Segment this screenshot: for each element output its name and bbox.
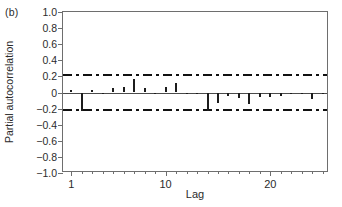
spike-bar [311,93,313,99]
spike-bar [227,93,229,96]
x-axis-tick [155,171,156,174]
spike-bar [248,93,250,104]
spike-bar [269,93,271,98]
spike-bar [217,93,219,103]
x-axis-tick [176,171,177,174]
spike-bar [70,90,72,92]
y-axis-tick-label: −0.8 [36,151,57,163]
x-axis-tick [239,171,240,174]
y-axis-title-text: Partial autocorrelation [3,40,15,142]
y-axis-tick [58,173,63,174]
spike-series [63,12,327,171]
spike-bar [144,88,146,92]
x-axis-tick [197,171,198,174]
y-axis-tick-label: 1.0 [42,6,57,18]
plot-inner: 1.00.80.60.40.20−0.2−0.4−0.6−0.8−1.0 110… [63,12,327,171]
spike-bar [123,87,125,93]
x-axis-title: Lag [62,188,328,200]
spike-bar [196,93,198,94]
x-axis-tick [270,171,271,176]
spike-bar [186,93,188,94]
spike-bar [91,90,93,92]
spike-bar [81,93,83,112]
y-axis-tick-label: 0.2 [42,70,57,82]
spike-bar [175,83,177,93]
x-axis-tick [145,171,146,174]
y-axis-tick-label: −0.6 [36,135,57,147]
x-axis-tick [323,171,324,174]
spike-bar [290,93,292,95]
x-axis-tick [166,171,167,176]
x-axis-tick [82,171,83,174]
y-axis-tick-label: 0.4 [42,54,57,66]
spike-bar [112,88,114,93]
plot-area: 1.00.80.60.40.20−0.2−0.4−0.6−0.8−1.0 110… [62,11,328,172]
y-axis-tick-label: −1.0 [36,167,57,179]
x-axis-tick [260,171,261,174]
y-axis-tick-label: 0.8 [42,22,57,34]
x-axis-tick [302,171,303,174]
spike-bar [301,93,303,94]
y-axis-tick-label: −0.2 [36,103,57,115]
x-axis-tick [228,171,229,174]
x-axis-tick [187,171,188,174]
x-axis-tick [218,171,219,174]
spike-bar [154,93,156,94]
x-axis-tick [281,171,282,174]
x-axis-tick [291,171,292,174]
y-axis-title: Partial autocorrelation [2,11,16,172]
x-axis-tick [312,171,313,174]
x-axis-tick [134,171,135,174]
y-axis-tick-label: 0.6 [42,38,57,50]
figure-panel-b: (b) Partial autocorrelation 1.00.80.60.4… [0,0,342,207]
spike-bar [133,79,135,93]
spike-bar [322,93,324,94]
x-axis-tick [208,171,209,174]
y-axis-tick-label: −0.4 [36,119,57,131]
x-axis-tick [249,171,250,174]
spike-bar [165,87,167,93]
x-axis-tick [71,171,72,176]
x-axis-tick [92,171,93,174]
spike-bar [259,93,261,97]
spike-bar [102,93,104,94]
spike-bar [207,93,209,112]
spike-bar [238,93,240,99]
x-axis-tick [124,171,125,174]
spike-bar [280,93,282,96]
x-axis-tick [113,171,114,174]
y-axis-tick-label: 0 [51,87,57,99]
x-axis-tick [103,171,104,174]
